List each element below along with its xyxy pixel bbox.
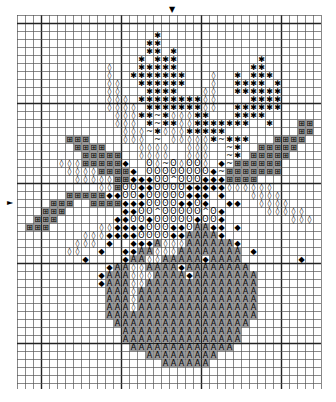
star-symbol-icon: ✱ [234, 136, 241, 143]
diamond-outline-symbol-icon: ◊ [202, 104, 209, 111]
diamond-outline-symbol-icon: ◊ [130, 304, 137, 311]
star-symbol-icon: ✱ [242, 88, 249, 95]
star-symbol-icon: ✱ [234, 144, 241, 151]
left-center-arrow-icon: ► [7, 199, 13, 207]
diamond-outline-symbol-icon: ◊ [210, 80, 217, 87]
letter-a-symbol-icon: A [202, 336, 209, 343]
oval-dot-symbol-icon: ʘ [154, 184, 161, 191]
letter-a-symbol-icon: A [146, 312, 153, 319]
filled-diamond-symbol-icon: ◆ [106, 192, 113, 199]
filled-diamond-symbol-icon: ◆ [122, 208, 129, 215]
box-grid-symbol-icon: ⊞ [50, 208, 57, 215]
diamond-outline-symbol-icon: ◊ [66, 160, 73, 167]
letter-a-symbol-icon: A [178, 352, 185, 359]
star-symbol-icon: ✱ [154, 56, 161, 63]
oval-dot-symbol-icon: ʘ [162, 192, 169, 199]
star-symbol-icon: ✱ [250, 96, 257, 103]
filled-diamond-symbol-icon: ◆ [98, 248, 105, 255]
filled-diamond-symbol-icon: ◆ [202, 200, 209, 207]
diamond-outline-symbol-icon: ◊ [306, 216, 313, 223]
letter-a-symbol-icon: A [226, 280, 233, 287]
letter-a-symbol-icon: A [186, 288, 193, 295]
letter-a-symbol-icon: A [162, 360, 169, 367]
box-grid-symbol-icon: ⊞ [242, 160, 249, 167]
star-symbol-icon: ✱ [162, 120, 169, 127]
box-grid-symbol-icon: ⊞ [90, 152, 97, 159]
diamond-outline-symbol-icon: ◊ [162, 152, 169, 159]
star-symbol-icon: ✱ [242, 136, 249, 143]
letter-a-symbol-icon: A [194, 256, 201, 263]
oval-dot-symbol-icon: ʘ [210, 216, 217, 223]
diamond-outline-symbol-icon: ◊ [282, 208, 289, 215]
letter-a-symbol-icon: A [146, 296, 153, 303]
diamond-outline-symbol-icon: ◊ [114, 80, 121, 87]
letter-a-symbol-icon: A [130, 320, 137, 327]
diamond-outline-symbol-icon: ◊ [138, 136, 145, 143]
letter-a-symbol-icon: A [146, 336, 153, 343]
diamond-outline-symbol-icon: ◊ [226, 184, 233, 191]
star-symbol-icon: ✱ [154, 96, 161, 103]
letter-a-symbol-icon: A [186, 320, 193, 327]
letter-a-symbol-icon: A [218, 296, 225, 303]
diamond-outline-symbol-icon: ◊ [162, 248, 169, 255]
star-symbol-icon: ✱ [242, 104, 249, 111]
caret-symbol-icon: ^ [154, 208, 161, 215]
tilde-symbol-icon: ~ [154, 136, 161, 143]
letter-a-symbol-icon: A [202, 224, 209, 231]
letter-a-symbol-icon: A [178, 328, 185, 335]
oval-dot-symbol-icon: ʘ [154, 200, 161, 207]
letter-a-symbol-icon: A [194, 320, 201, 327]
letter-a-symbol-icon: A [106, 304, 113, 311]
letter-a-symbol-icon: A [162, 328, 169, 335]
diamond-outline-symbol-icon: ◊ [130, 104, 137, 111]
letter-a-symbol-icon: A [114, 312, 121, 319]
star-symbol-icon: ✱ [162, 72, 169, 79]
letter-a-symbol-icon: A [114, 264, 121, 271]
oval-dot-symbol-icon: ʘ [178, 176, 185, 183]
oval-dot-symbol-icon: ʘ [130, 184, 137, 191]
oval-dot-symbol-icon: ʘ [194, 168, 201, 175]
star-symbol-icon: ✱ [186, 96, 193, 103]
filled-diamond-symbol-icon: ◆ [98, 280, 105, 287]
letter-a-symbol-icon: A [242, 280, 249, 287]
star-symbol-icon: ✱ [250, 104, 257, 111]
letter-a-symbol-icon: A [146, 304, 153, 311]
diamond-outline-symbol-icon: ◊ [98, 232, 105, 239]
oval-dot-symbol-icon: ʘ [154, 232, 161, 239]
oval-dot-symbol-icon: ʘ [186, 176, 193, 183]
box-grid-symbol-icon: ⊞ [42, 216, 49, 223]
star-symbol-icon: ✱ [146, 64, 153, 71]
letter-a-symbol-icon: A [138, 336, 145, 343]
diamond-outline-symbol-icon: ◊ [138, 144, 145, 151]
letter-a-symbol-icon: A [202, 312, 209, 319]
diamond-outline-symbol-icon: ◊ [138, 152, 145, 159]
letter-a-symbol-icon: A [242, 312, 249, 319]
diamond-outline-symbol-icon: ◊ [146, 144, 153, 151]
letter-a-symbol-icon: A [122, 264, 129, 271]
oval-dot-symbol-icon: ʘ [202, 168, 209, 175]
star-symbol-icon: ✱ [234, 88, 241, 95]
letter-a-symbol-icon: A [234, 304, 241, 311]
diamond-outline-symbol-icon: ◊ [74, 160, 81, 167]
diamond-outline-symbol-icon: ◊ [82, 168, 89, 175]
box-grid-symbol-icon: ⊞ [114, 184, 121, 191]
filled-diamond-symbol-icon: ◆ [138, 200, 145, 207]
letter-a-symbol-icon: A [186, 232, 193, 239]
diamond-outline-symbol-icon: ◊ [90, 240, 97, 247]
diamond-outline-symbol-icon: ◊ [186, 152, 193, 159]
star-symbol-icon: ✱ [266, 104, 273, 111]
letter-a-symbol-icon: A [162, 352, 169, 359]
box-grid-symbol-icon: ⊞ [298, 136, 305, 143]
star-symbol-icon: ✱ [274, 104, 281, 111]
star-symbol-icon: ✱ [154, 80, 161, 87]
filled-diamond-symbol-icon: ◆ [122, 248, 129, 255]
diamond-outline-symbol-icon: ◊ [90, 232, 97, 239]
diamond-outline-symbol-icon: ◊ [178, 160, 185, 167]
diamond-outline-symbol-icon: ◊ [122, 104, 129, 111]
letter-a-symbol-icon: A [114, 288, 121, 295]
box-grid-symbol-icon: ⊞ [34, 224, 41, 231]
star-symbol-icon: ✱ [154, 64, 161, 71]
box-grid-symbol-icon: ⊞ [90, 160, 97, 167]
diamond-outline-symbol-icon: ◊ [162, 128, 169, 135]
star-symbol-icon: ✱ [170, 88, 177, 95]
